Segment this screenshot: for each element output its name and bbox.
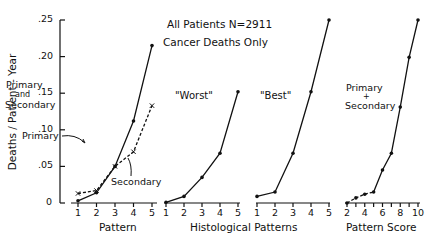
dot-marker-icon [255, 195, 259, 199]
dot-marker-icon [273, 190, 277, 194]
dot-marker-icon [291, 151, 295, 155]
panel4-label-line3: Secondary [345, 101, 395, 111]
annotation-primary: Primary [22, 131, 59, 141]
y-tick-label: 0 [46, 197, 52, 207]
chart-title-line2: Cancer Deaths Only [163, 37, 268, 48]
x-tick-label: 1 [163, 208, 169, 218]
x-tick-label: 2 [94, 208, 100, 218]
dot-marker-icon [381, 168, 385, 172]
x-tick-label: 4 [131, 208, 137, 218]
x-tick-label: 4 [362, 208, 368, 218]
x-tick-label: 2 [272, 208, 278, 218]
y-tick-label: .25 [38, 14, 53, 24]
panel2-label: "Worst" [175, 91, 213, 101]
series-line-worst [166, 92, 238, 203]
dot-marker-icon [327, 18, 331, 22]
panel4-xlabel: Pattern Score [346, 222, 417, 233]
dot-marker-icon [200, 176, 204, 180]
x-tick-label: 3 [290, 208, 296, 218]
arrowhead-icon [82, 139, 85, 143]
panel1-xlabel: Pattern [99, 222, 137, 233]
x-tick-label: 3 [112, 208, 118, 218]
panel1-label-line2: and [15, 91, 30, 99]
dot-marker-icon [76, 199, 80, 203]
x-tick-label: 3 [199, 208, 205, 218]
chart-title-line1: All Patients N=2911 [167, 19, 272, 30]
x-tick-label: 6 [380, 208, 386, 218]
group-xlabel: Histological Patterns [190, 222, 297, 233]
x-tick-label: 2 [181, 208, 187, 218]
x-tick-label: 5 [235, 208, 241, 218]
x-tick-label: 1 [75, 208, 81, 218]
x-tick-label: 1 [254, 208, 260, 218]
x-tick-label: 4 [308, 208, 314, 218]
dot-marker-icon [398, 105, 402, 109]
arrow-secondary-icon [128, 158, 131, 176]
x-tick-label: 2 [344, 208, 350, 218]
dot-marker-icon [407, 56, 411, 60]
x-tick-label: 8 [397, 208, 403, 218]
panel1-label-line1: Primary [6, 80, 43, 90]
dot-marker-icon [363, 192, 367, 196]
dot-marker-icon [218, 151, 222, 155]
panel3-label: "Best" [260, 91, 291, 101]
panel1-label-line3: Secondary [5, 100, 55, 110]
dot-marker-icon [150, 44, 154, 48]
dot-marker-icon [372, 190, 376, 194]
x-tick-label: 5 [149, 208, 155, 218]
x-tick-label: 5 [326, 208, 332, 218]
y-tick-label: .20 [38, 51, 53, 61]
annotation-secondary: Secondary [111, 177, 161, 187]
x-tick-label: 4 [217, 208, 223, 218]
dot-marker-icon [236, 90, 240, 94]
dot-marker-icon [309, 90, 313, 94]
dot-marker-icon [182, 195, 186, 199]
y-tick-label: .05 [38, 160, 53, 170]
dot-marker-icon [354, 196, 358, 200]
dot-marker-icon [345, 201, 349, 205]
y-axis-label: Deaths / Patient - Year [6, 54, 18, 171]
dot-marker-icon [164, 200, 168, 204]
series-line-dashed [347, 192, 374, 203]
x-tick-label: 10 [412, 208, 424, 218]
dot-marker-icon [416, 18, 420, 22]
dot-marker-icon [390, 151, 394, 155]
dot-marker-icon [132, 119, 136, 123]
arrow-primary-icon [62, 136, 84, 142]
x-marker-icon [131, 150, 135, 154]
